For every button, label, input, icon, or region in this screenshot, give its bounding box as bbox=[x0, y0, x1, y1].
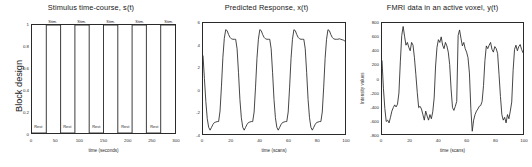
panel-fmri-data: FMRI data in an active voxel, y(t) Inten… bbox=[353, 0, 532, 167]
x-tick-label: 60 bbox=[464, 138, 469, 143]
fmri-waveform-svg bbox=[382, 23, 523, 134]
panel-stimulus-timecourse: Stimulus time-course, s(t) Block design … bbox=[0, 0, 182, 167]
y-tick-label: 600 bbox=[363, 34, 379, 39]
panel-stimulus-xlabel: time (seconds) bbox=[31, 148, 176, 153]
rest-block-label: Rest bbox=[34, 124, 42, 129]
y-tick-label: -2 bbox=[184, 110, 200, 115]
x-tick-label: 100 bbox=[342, 138, 349, 143]
fmri-signal-trace bbox=[382, 26, 523, 131]
predicted-hrf-trace bbox=[203, 30, 345, 130]
x-tick-label: 80 bbox=[315, 138, 320, 143]
y-tick-label: -200 bbox=[363, 90, 379, 95]
rest-block-label: Rest bbox=[121, 124, 129, 129]
x-tick-label: 0 bbox=[201, 138, 203, 143]
fmri-block-design-figure: Stimulus time-course, s(t) Block design … bbox=[0, 0, 532, 167]
panel-fmri-title: FMRI data in an active voxel, y(t) bbox=[353, 3, 532, 12]
panel-stimulus-plot-area bbox=[31, 24, 176, 134]
y-tick-label: 200 bbox=[363, 62, 379, 67]
y-tick-label: 0.8 bbox=[13, 44, 29, 49]
x-tick-label: 60 bbox=[286, 138, 291, 143]
panel-predicted-plot-area bbox=[202, 22, 346, 135]
x-tick-label: 40 bbox=[257, 138, 262, 143]
rest-block-label: Rest bbox=[63, 124, 71, 129]
x-tick-label: 80 bbox=[493, 138, 498, 143]
y-tick-label: 0 bbox=[13, 132, 29, 137]
y-tick-label: 2 bbox=[184, 65, 200, 70]
y-tick-label: 6 bbox=[184, 20, 200, 25]
stim-block-label: Stim. bbox=[77, 19, 86, 24]
stim-block-label: Stim. bbox=[48, 19, 57, 24]
panel-predicted-xlabel: time (scans) bbox=[202, 148, 346, 153]
stim-block-label: Stim. bbox=[135, 19, 144, 24]
y-tick-label: 0.4 bbox=[13, 88, 29, 93]
y-tick-label: 4 bbox=[184, 42, 200, 47]
x-tick-label: 0 bbox=[380, 138, 382, 143]
predicted-waveform-svg bbox=[203, 23, 345, 134]
y-tick-label: 0.6 bbox=[13, 66, 29, 71]
x-tick-label: 20 bbox=[407, 138, 412, 143]
y-tick-label: 0 bbox=[184, 87, 200, 92]
y-tick-label: -4 bbox=[184, 133, 200, 138]
x-tick-label: 0 bbox=[30, 138, 32, 143]
panel-predicted-title: Predicted Response, x(t) bbox=[178, 3, 355, 12]
panel-fmri-plot-area bbox=[381, 22, 524, 135]
panel-predicted-response: Predicted Response, x(t) time (scans) 02… bbox=[178, 0, 355, 167]
x-tick-label: 200 bbox=[124, 138, 131, 143]
stim-block-label: Stim. bbox=[106, 19, 115, 24]
y-tick-label: -600 bbox=[363, 118, 379, 123]
x-tick-label: 100 bbox=[76, 138, 83, 143]
x-tick-label: 20 bbox=[228, 138, 233, 143]
panel-fmri-xlabel: time (scans) bbox=[381, 148, 524, 153]
y-tick-label: 400 bbox=[363, 48, 379, 53]
panel-stimulus-title: Stimulus time-course, s(t) bbox=[0, 3, 182, 12]
y-tick-label: -400 bbox=[363, 104, 379, 109]
y-tick-label: 0.2 bbox=[13, 110, 29, 115]
rest-block-label: Rest bbox=[92, 124, 100, 129]
rest-block-label: Rest bbox=[150, 124, 158, 129]
stimulus-boxcar-trace bbox=[32, 25, 175, 133]
y-tick-label: 800 bbox=[363, 20, 379, 25]
x-tick-label: 40 bbox=[436, 138, 441, 143]
stim-block-label: Stim. bbox=[164, 19, 173, 24]
y-tick-label: -800 bbox=[363, 133, 379, 138]
x-tick-label: 100 bbox=[520, 138, 527, 143]
stimulus-waveform-svg bbox=[32, 25, 175, 133]
x-tick-label: 50 bbox=[53, 138, 58, 143]
y-tick-label: 1 bbox=[13, 22, 29, 27]
x-tick-label: 250 bbox=[148, 138, 155, 143]
y-tick-label: 0 bbox=[363, 76, 379, 81]
x-tick-label: 150 bbox=[100, 138, 107, 143]
